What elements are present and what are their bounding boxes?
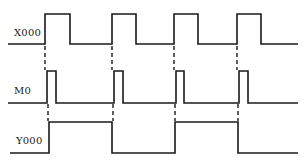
timing-diagram [0, 0, 306, 166]
waveform-x000 [8, 14, 298, 44]
waveform-y000 [10, 122, 298, 153]
waveforms [8, 14, 298, 153]
dashed-guides [45, 46, 238, 121]
signal-label-m0: M0 [14, 86, 31, 96]
signal-label-x000: X000 [14, 28, 41, 38]
waveform-m0 [8, 71, 298, 103]
signal-label-y000: Y000 [16, 136, 43, 146]
